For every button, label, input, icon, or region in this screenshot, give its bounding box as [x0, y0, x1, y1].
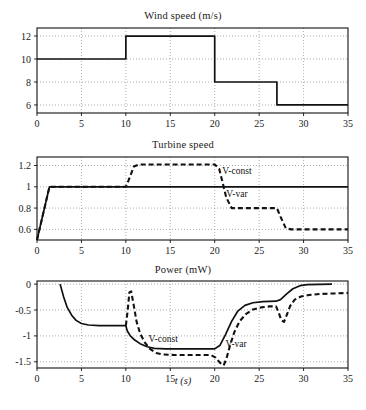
series-label-v-var: V-var: [225, 339, 247, 349]
series-label-v-const: V-const: [222, 166, 252, 176]
chart-power: 051015202530350-0.5-1-1.5V-constV-var: [0, 263, 366, 410]
chart-turbine-speed: 051015202530350.60.811.2V-constV-var: [0, 135, 366, 263]
svg-text:-0.5: -0.5: [15, 305, 31, 316]
svg-text:6: 6: [26, 100, 31, 111]
series-label-v-var: V-var: [226, 189, 248, 199]
panel-power: Power (mW) 051015202530350-0.5-1-1.5V-co…: [0, 263, 366, 410]
svg-text:20: 20: [210, 118, 220, 129]
panel-wind-speed: Wind speed (m/s) 05101520253035681012: [0, 0, 366, 135]
svg-text:15: 15: [165, 118, 175, 129]
svg-text:30: 30: [299, 118, 309, 129]
svg-text:35: 35: [343, 245, 353, 256]
svg-text:12: 12: [21, 31, 31, 42]
svg-text:0.8: 0.8: [19, 203, 32, 214]
svg-text:5: 5: [79, 118, 84, 129]
svg-text:-1: -1: [23, 330, 31, 341]
svg-text:25: 25: [254, 118, 264, 129]
panel-turbine-speed: Turbine speed 051015202530350.60.811.2V-…: [0, 135, 366, 263]
svg-text:0.6: 0.6: [19, 224, 32, 235]
svg-text:10: 10: [121, 118, 131, 129]
svg-text:0: 0: [35, 118, 40, 129]
svg-text:15: 15: [165, 245, 175, 256]
series-label-v-const: V-const: [149, 334, 179, 344]
svg-text:1: 1: [26, 181, 31, 192]
svg-text:1.2: 1.2: [19, 160, 32, 171]
svg-text:10: 10: [21, 54, 31, 65]
svg-text:5: 5: [79, 245, 84, 256]
svg-text:0: 0: [35, 245, 40, 256]
svg-text:20: 20: [210, 245, 220, 256]
svg-text:8: 8: [26, 77, 31, 88]
svg-text:25: 25: [254, 245, 264, 256]
chart-wind-speed: 05101520253035681012: [0, 0, 366, 135]
svg-text:30: 30: [299, 245, 309, 256]
svg-text:35: 35: [343, 118, 353, 129]
svg-text:0: 0: [26, 279, 31, 290]
svg-text:10: 10: [121, 245, 131, 256]
x-axis-label: t (s): [0, 375, 366, 386]
svg-text:-1.5: -1.5: [15, 356, 31, 367]
figure-wind-turbine-power: Wind speed (m/s) 05101520253035681012 Tu…: [0, 0, 366, 410]
